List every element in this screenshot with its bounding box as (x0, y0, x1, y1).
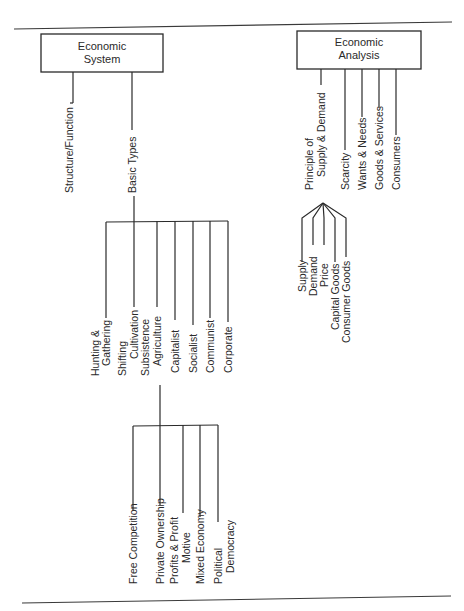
economic-analysis-tree: Principle of Supply & Demand Scarcity Wa… (303, 69, 402, 190)
analysis-wants-needs: Wants & Needs (356, 117, 368, 190)
basic-type-socialist: Socialist (187, 334, 199, 373)
capitalist-features-tree: Free Competition Private Ownership Profi… (127, 385, 236, 584)
svg-text:Consumers: Consumers (390, 136, 402, 190)
feature-private-ownership: Private Ownership (154, 498, 166, 584)
top-rule (14, 22, 452, 29)
svg-text:Principle of: Principle of (303, 138, 315, 190)
svg-text:Motive: Motive (180, 532, 192, 563)
supply-demand-fan: Supply Demand Price Capital Goods Consum… (296, 203, 352, 343)
basic-types-tree: Hunting & Gathering Shifting Cultivation… (89, 221, 234, 376)
economic-system-node: Economic System (41, 34, 163, 72)
analysis-goods-services: Goods & Services (373, 106, 385, 190)
svg-text:Supply & Demand: Supply & Demand (315, 92, 327, 177)
svg-text:Corporate: Corporate (222, 326, 234, 373)
svg-text:Profits & Profit: Profits & Profit (168, 517, 180, 584)
feature-profits-profit-motive: Profits & Profit Motive (168, 517, 192, 584)
component-consumer-goods: Consumer Goods (340, 261, 352, 343)
feature-mixed-economy: Mixed Economy (194, 509, 206, 584)
basic-type-shifting-cultivation: Shifting Cultivation (116, 310, 140, 376)
svg-text:Gathering: Gathering (100, 320, 112, 366)
analysis-consumers: Consumers (390, 136, 402, 190)
basic-type-subsistence-agriculture: Subsistence Agriculture (139, 316, 163, 376)
feature-political-democracy: Political Democracy (212, 519, 236, 584)
svg-text:Mixed Economy: Mixed Economy (194, 509, 206, 584)
svg-text:Scarcity: Scarcity (339, 152, 351, 190)
economic-system-title-line2: System (84, 53, 121, 65)
economic-system-title-line1: Economic (78, 40, 127, 52)
basic-types-branch: Basic Types (126, 72, 138, 222)
basic-types-label: Basic Types (126, 137, 138, 193)
svg-text:Goods & Services: Goods & Services (373, 106, 385, 190)
economic-analysis-node: Economic Analysis (297, 31, 421, 69)
svg-text:Free Competition: Free Competition (127, 503, 139, 584)
bottom-rule (22, 596, 451, 603)
basic-type-capitalist: Capitalist (169, 330, 181, 373)
feature-free-competition: Free Competition (127, 503, 139, 584)
svg-text:Shifting: Shifting (116, 341, 128, 376)
structure-function-label: Structure/Function (63, 107, 75, 193)
analysis-scarcity: Scarcity (339, 152, 351, 190)
svg-text:Democracy: Democracy (224, 519, 236, 573)
svg-text:Agriculture: Agriculture (151, 316, 163, 366)
basic-type-corporate: Corporate (222, 326, 234, 373)
svg-text:Socialist: Socialist (187, 334, 199, 373)
svg-text:Private Ownership: Private Ownership (154, 498, 166, 584)
economics-concept-diagram: Economic System Structure/Function Basic… (0, 0, 464, 611)
economic-analysis-title-line2: Analysis (339, 49, 380, 61)
basic-type-communist: Communist (204, 320, 216, 373)
economic-analysis-title-line1: Economic (335, 36, 384, 48)
svg-text:Subsistence: Subsistence (139, 319, 151, 376)
analysis-principle-supply-demand: Principle of Supply & Demand (303, 92, 327, 190)
structure-function-branch: Structure/Function (63, 72, 75, 193)
svg-text:Communist: Communist (204, 320, 216, 373)
svg-text:Wants & Needs: Wants & Needs (356, 117, 368, 190)
basic-type-hunting-gathering: Hunting & Gathering (89, 320, 112, 376)
svg-text:Capitalist: Capitalist (169, 330, 181, 373)
svg-text:Political: Political (212, 548, 224, 584)
